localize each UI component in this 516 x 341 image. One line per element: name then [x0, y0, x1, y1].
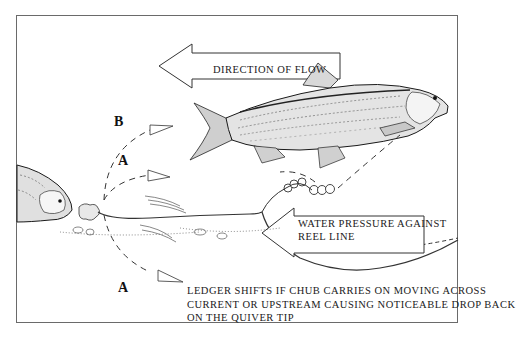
arrow-tag-upper	[150, 125, 173, 135]
arrow-tag-middle	[148, 170, 170, 181]
water-pressure-label: WATER PRESSURE AGAINST REEL LINE	[298, 217, 448, 243]
ledger-weights	[284, 178, 335, 195]
ledger-shift-caption: LEDGER SHIFTS IF CHUB CARRIES ON MOVING …	[187, 284, 516, 325]
hook-link-line	[98, 212, 262, 218]
direction-of-flow-label: DIRECTION OF FLOW	[213, 64, 327, 75]
water-pressure-line-1: WATER PRESSURE AGAINST	[298, 217, 448, 230]
ledger-caption-line-2: CURRENT OR UPSTREAM CAUSING NOTICEABLE D…	[187, 298, 516, 312]
ledger-caption-line-3: ON THE QUIVER TIP	[187, 311, 516, 325]
path-label-a-upper: A	[118, 153, 128, 169]
path-label-a-lower: A	[118, 280, 128, 296]
chub-feeding	[17, 165, 72, 222]
water-pressure-line-2: REEL LINE	[298, 230, 448, 243]
ledger-caption-line-1: LEDGER SHIFTS IF CHUB CARRIES ON MOVING …	[187, 284, 516, 298]
arrow-tag-lower	[158, 270, 183, 282]
path-label-b: B	[114, 114, 123, 130]
bait-icon	[79, 204, 100, 220]
